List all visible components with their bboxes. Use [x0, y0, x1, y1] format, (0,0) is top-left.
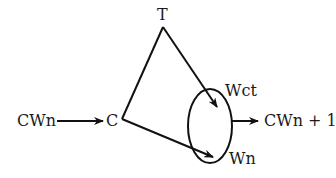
- diagram-canvas: CWn C T Wct Wn CWn + 1: [0, 0, 336, 178]
- group-ellipse: [188, 89, 232, 163]
- edge-c-to-wn: [122, 119, 213, 157]
- node-wn-label: Wn: [229, 149, 256, 168]
- node-output-label: CWn + 1: [264, 111, 336, 130]
- edge-c-to-t: [122, 27, 163, 119]
- node-input-label: CWn: [17, 111, 56, 130]
- node-wct-label: Wct: [225, 81, 257, 100]
- node-c-label: C: [106, 111, 118, 130]
- diagram-svg: CWn C T Wct Wn CWn + 1: [0, 0, 336, 178]
- edge-t-to-wct: [163, 27, 217, 107]
- node-t-label: T: [157, 5, 168, 24]
